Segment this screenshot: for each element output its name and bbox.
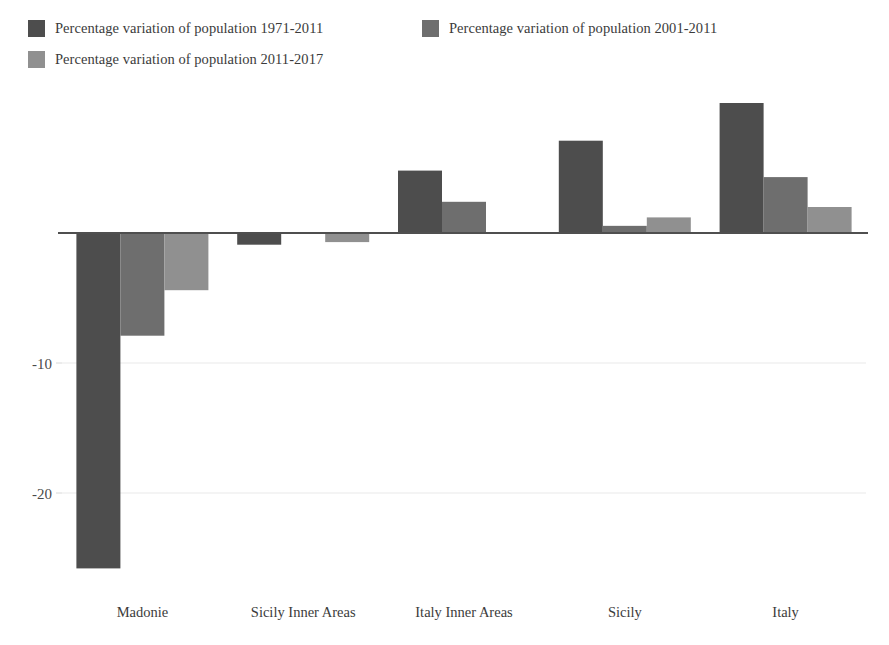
bar-italy-s2[interactable] [764, 177, 808, 233]
bar-sicily-s3[interactable] [647, 217, 691, 233]
bar-italy-s1[interactable] [720, 103, 764, 233]
y-tick-label: -20 [32, 486, 52, 502]
x-tick-label-sicily-inner-areas: Sicily Inner Areas [251, 604, 356, 620]
bars-layer [76, 103, 851, 568]
bar-italy-inner-areas-s2[interactable] [442, 202, 486, 233]
bar-italy-s3[interactable] [808, 207, 852, 233]
bar-madonie-s3[interactable] [164, 233, 208, 290]
bar-sicily-inner-areas-s3[interactable] [325, 233, 369, 242]
bar-sicily-s1[interactable] [559, 141, 603, 233]
bar-sicily-inner-areas-s1[interactable] [237, 233, 281, 245]
y-axis-labels: -10-20 [32, 356, 62, 502]
bar-chart: -10-20 MadonieSicily Inner AreasItaly In… [0, 0, 889, 645]
bar-madonie-s2[interactable] [120, 233, 164, 336]
x-tick-label-italy-inner-areas: Italy Inner Areas [415, 604, 513, 620]
bar-italy-inner-areas-s1[interactable] [398, 171, 442, 233]
x-tick-label-madonie: Madonie [117, 604, 169, 620]
gridlines [62, 363, 866, 493]
bar-madonie-s1[interactable] [76, 233, 120, 568]
x-tick-label-sicily: Sicily [608, 604, 643, 620]
chart-canvas: -10-20 MadonieSicily Inner AreasItaly In… [0, 0, 889, 645]
x-tick-label-italy: Italy [772, 604, 799, 620]
x-axis-labels: MadonieSicily Inner AreasItaly Inner Are… [117, 604, 800, 620]
y-tick-label: -10 [32, 356, 52, 372]
